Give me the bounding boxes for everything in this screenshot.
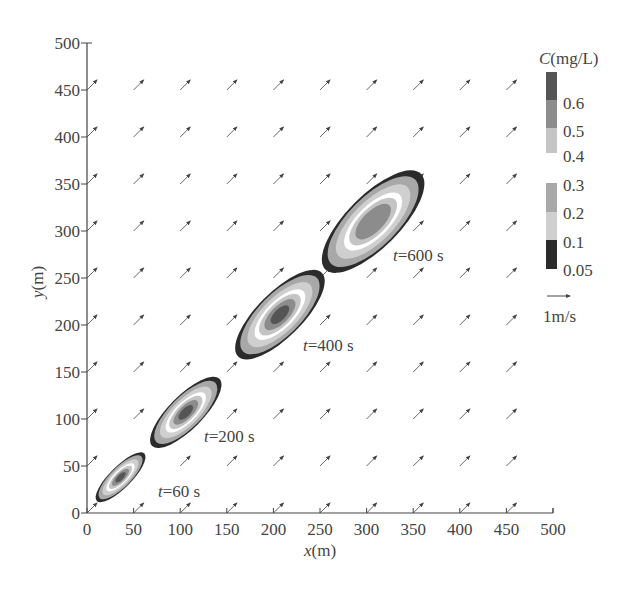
colorbar-label: 0.5: [563, 122, 584, 141]
velocity-arrow: [460, 80, 470, 90]
velocity-arrow: [180, 268, 190, 278]
velocity-arrow: [273, 362, 283, 372]
velocity-arrow: [273, 409, 283, 419]
velocity-arrow: [506, 221, 516, 231]
plume-contour-chart: 0501001502002503003504004505000501001502…: [0, 0, 630, 595]
velocity-arrow: [273, 80, 283, 90]
y-tick-label: 350: [55, 175, 81, 194]
velocity-arrow: [413, 80, 423, 90]
velocity-arrow: [367, 127, 377, 137]
velocity-arrow: [320, 221, 330, 231]
velocity-arrow: [320, 456, 330, 466]
velocity-arrow: [134, 221, 144, 231]
colorbar-label: 0.3: [563, 176, 584, 195]
velocity-arrow: [506, 174, 516, 184]
velocity-arrow: [367, 80, 377, 90]
velocity-arrow: [273, 221, 283, 231]
velocity-arrow: [367, 503, 377, 513]
velocity-arrow: [180, 80, 190, 90]
velocity-arrow: [87, 80, 97, 90]
velocity-arrow: [273, 268, 283, 278]
velocity-arrow: [460, 409, 470, 419]
plume-time-label: t=600 s: [393, 246, 444, 265]
velocity-arrow: [180, 362, 190, 372]
colorbar-legend: C(mg/L)0.60.50.40.30.20.10.051m/s: [539, 49, 599, 326]
velocity-arrow: [227, 80, 237, 90]
x-tick-label: 300: [354, 520, 380, 539]
x-tick-label: 200: [261, 520, 287, 539]
velocity-arrow: [227, 127, 237, 137]
velocity-arrow: [460, 456, 470, 466]
velocity-arrow: [367, 362, 377, 372]
x-tick-label: 500: [540, 520, 566, 539]
velocity-arrow: [180, 456, 190, 466]
velocity-arrow: [460, 503, 470, 513]
plume: [222, 257, 338, 373]
velocity-arrow: [413, 127, 423, 137]
velocity-arrow: [506, 268, 516, 278]
y-tick-label: 50: [63, 457, 80, 476]
velocity-arrow: [227, 362, 237, 372]
velocity-arrow: [134, 127, 144, 137]
velocity-arrow: [227, 268, 237, 278]
y-tick-label: 500: [55, 34, 81, 53]
velocity-arrow: [227, 221, 237, 231]
y-tick-label: 400: [55, 128, 81, 147]
velocity-arrow: [320, 409, 330, 419]
velocity-arrow: [506, 503, 516, 513]
velocity-arrow: [134, 409, 144, 419]
y-tick-label: 150: [55, 363, 81, 382]
reference-arrow-label: 1m/s: [543, 307, 576, 326]
velocity-arrow: [134, 80, 144, 90]
velocity-arrow: [87, 268, 97, 278]
x-tick-label: 100: [167, 520, 193, 539]
colorbar-label: 0.1: [563, 233, 584, 252]
velocity-arrow: [460, 362, 470, 372]
colorbar-swatch: [546, 212, 557, 240]
velocity-arrow: [413, 268, 423, 278]
velocity-arrow: [87, 503, 97, 513]
plume-time-label: t=400 s: [303, 336, 354, 355]
velocity-arrow: [413, 409, 423, 419]
velocity-arrow: [506, 362, 516, 372]
x-tick-label: 250: [307, 520, 333, 539]
concentration-plumes: [89, 155, 439, 508]
velocity-arrow: [227, 409, 237, 419]
velocity-arrow: [273, 456, 283, 466]
velocity-arrow: [506, 315, 516, 325]
y-tick-label: 0: [72, 504, 81, 523]
plume-time-label: t=60 s: [158, 482, 200, 501]
velocity-arrow: [460, 174, 470, 184]
y-tick-label: 100: [55, 410, 81, 429]
velocity-arrow: [320, 80, 330, 90]
velocity-arrow: [227, 315, 237, 325]
plume-time-label: t=200 s: [204, 427, 255, 446]
velocity-arrow: [134, 362, 144, 372]
velocity-arrow: [320, 503, 330, 513]
velocity-arrow: [320, 174, 330, 184]
velocity-arrow: [273, 127, 283, 137]
colorbar-swatch: [546, 72, 557, 100]
colorbar-label: 0.4: [563, 147, 585, 166]
velocity-arrow: [87, 127, 97, 137]
velocity-arrow: [87, 315, 97, 325]
y-tick-label: 450: [55, 81, 81, 100]
velocity-arrow: [413, 315, 423, 325]
colorbar-label: 0.05: [563, 261, 593, 280]
velocity-arrow: [87, 174, 97, 184]
colorbar-title: C(mg/L): [539, 49, 599, 68]
x-tick-label: 450: [494, 520, 520, 539]
velocity-arrow: [134, 268, 144, 278]
velocity-arrow: [320, 315, 330, 325]
velocity-arrow: [320, 362, 330, 372]
velocity-arrow: [227, 503, 237, 513]
velocity-arrow: [273, 174, 283, 184]
velocity-arrow: [413, 503, 423, 513]
velocity-arrow: [413, 221, 423, 231]
velocity-arrow: [180, 221, 190, 231]
velocity-arrow: [506, 80, 516, 90]
colorbar-swatch: [546, 183, 557, 212]
colorbar-swatch: [546, 100, 557, 128]
velocity-arrow: [506, 456, 516, 466]
colorbar-swatch: [546, 240, 557, 269]
